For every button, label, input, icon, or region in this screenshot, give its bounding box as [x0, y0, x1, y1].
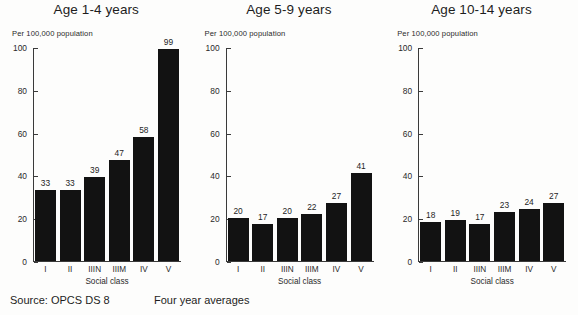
bar [60, 190, 81, 261]
x-axis-category-label: IV [519, 265, 540, 274]
bar-value-label: 22 [307, 202, 316, 212]
bar-group: 181917232427 [420, 49, 564, 261]
bar-value-label: 58 [139, 125, 148, 135]
bar-slot: 41 [351, 49, 372, 261]
bar-slot: 20 [228, 49, 249, 261]
bar [494, 212, 515, 261]
y-axis-tick-label: 0 [408, 257, 413, 267]
bar-value-label: 17 [475, 212, 484, 222]
x-axis-line [418, 261, 566, 262]
bar-slot: 99 [158, 49, 179, 261]
figure-page: Age 1-4 years Per 100,000 population 020… [0, 0, 578, 315]
x-axis-category-label: II [60, 265, 81, 274]
bar [35, 190, 56, 261]
x-axis-title: Social class [226, 277, 374, 286]
chart-panel-age-10-14: Age 10-14 years Per 100,000 population 0… [385, 0, 578, 290]
y-axis-tick-mark [34, 262, 38, 263]
bar-value-label: 39 [90, 165, 99, 175]
bar [228, 218, 249, 261]
y-axis-tick-label: 40 [210, 171, 219, 181]
bar [445, 220, 466, 261]
bar-slot: 47 [109, 49, 130, 261]
y-axis-tick-mark [227, 262, 231, 263]
bar [469, 224, 490, 260]
x-axis-category-label: V [543, 265, 564, 274]
bar-slot: 19 [445, 49, 466, 261]
x-axis-category-label: V [351, 265, 372, 274]
bar-slot: 24 [519, 49, 540, 261]
x-axis-line [33, 261, 181, 262]
x-axis-title: Social class [418, 277, 566, 286]
chart-panel-age-5-9: Age 5-9 years Per 100,000 population 020… [193, 0, 386, 290]
y-axis-tick-label: 0 [215, 257, 220, 267]
chart-panel-row: Age 1-4 years Per 100,000 population 020… [0, 0, 578, 290]
bar-slot: 20 [277, 49, 298, 261]
x-axis-category-label: II [252, 265, 273, 274]
bar-slot: 33 [60, 49, 81, 261]
plot-area: 020406080100 333339475899 [33, 48, 181, 262]
x-axis-category-label: IIIM [301, 265, 322, 274]
bar-slot: 58 [133, 49, 154, 261]
x-axis-category-label: IIIN [84, 265, 105, 274]
bar [420, 222, 441, 261]
y-axis-tick-label: 0 [22, 257, 27, 267]
bar-value-label: 47 [115, 148, 124, 158]
x-axis-category-label: V [158, 265, 179, 274]
x-axis-line [226, 261, 374, 262]
x-axis-category-labels: IIIIIINIIIMIVV [420, 265, 564, 274]
bar-slot: 18 [420, 49, 441, 261]
y-axis-unit-label: Per 100,000 population [12, 29, 93, 38]
bar-value-label: 33 [65, 178, 74, 188]
bar-value-label: 19 [451, 208, 460, 218]
bar [351, 173, 372, 261]
bar-group: 201720222741 [228, 49, 372, 261]
bar [84, 177, 105, 260]
y-axis-tick-label: 80 [210, 86, 219, 96]
y-axis-tick-label: 100 [13, 43, 27, 53]
bar [277, 218, 298, 261]
x-axis-category-label: IIIM [494, 265, 515, 274]
bar-value-label: 27 [332, 191, 341, 201]
plot-area: 020406080100 201720222741 [226, 48, 374, 262]
bar [109, 160, 130, 261]
bar-slot: 27 [543, 49, 564, 261]
y-axis-tick-label: 40 [18, 171, 27, 181]
x-axis-title: Social class [33, 277, 181, 286]
bar [158, 49, 179, 261]
bar-value-label: 33 [41, 178, 50, 188]
bar-slot: 39 [84, 49, 105, 261]
bar-slot: 22 [301, 49, 322, 261]
bar-value-label: 23 [500, 200, 509, 210]
x-axis-category-label: IIIN [277, 265, 298, 274]
y-axis-unit-label: Per 100,000 population [205, 29, 286, 38]
y-axis-tick-label: 60 [403, 129, 412, 139]
y-axis-line [33, 48, 34, 262]
x-axis-category-label: IV [133, 265, 154, 274]
y-axis-line [226, 48, 227, 262]
bar-value-label: 27 [549, 191, 558, 201]
y-axis-line [418, 48, 419, 262]
y-axis-tick-label: 20 [210, 214, 219, 224]
x-axis-category-labels: IIIIIINIIIMIVV [35, 265, 179, 274]
bar-group: 333339475899 [35, 49, 179, 261]
y-axis-tick-label: 80 [403, 86, 412, 96]
x-axis-category-label: IIIM [109, 265, 130, 274]
y-axis-tick-label: 40 [403, 171, 412, 181]
bar-value-label: 18 [426, 210, 435, 220]
bar-slot: 33 [35, 49, 56, 261]
bar-slot: 17 [469, 49, 490, 261]
y-axis-tick-label: 20 [403, 214, 412, 224]
bar-value-label: 41 [356, 161, 365, 171]
chart-title: Age 10-14 years [385, 2, 578, 17]
y-axis-tick-label: 60 [18, 129, 27, 139]
bar-value-label: 24 [524, 197, 533, 207]
chart-title: Age 1-4 years [0, 2, 193, 17]
note-text: Four year averages [154, 294, 249, 306]
chart-title: Age 5-9 years [193, 2, 386, 17]
y-axis-tick-label: 100 [398, 43, 412, 53]
y-axis-tick-label: 80 [18, 86, 27, 96]
y-axis-tick-mark [419, 262, 423, 263]
y-axis-tick-label: 60 [210, 129, 219, 139]
x-axis-category-label: I [420, 265, 441, 274]
bar [326, 203, 347, 261]
